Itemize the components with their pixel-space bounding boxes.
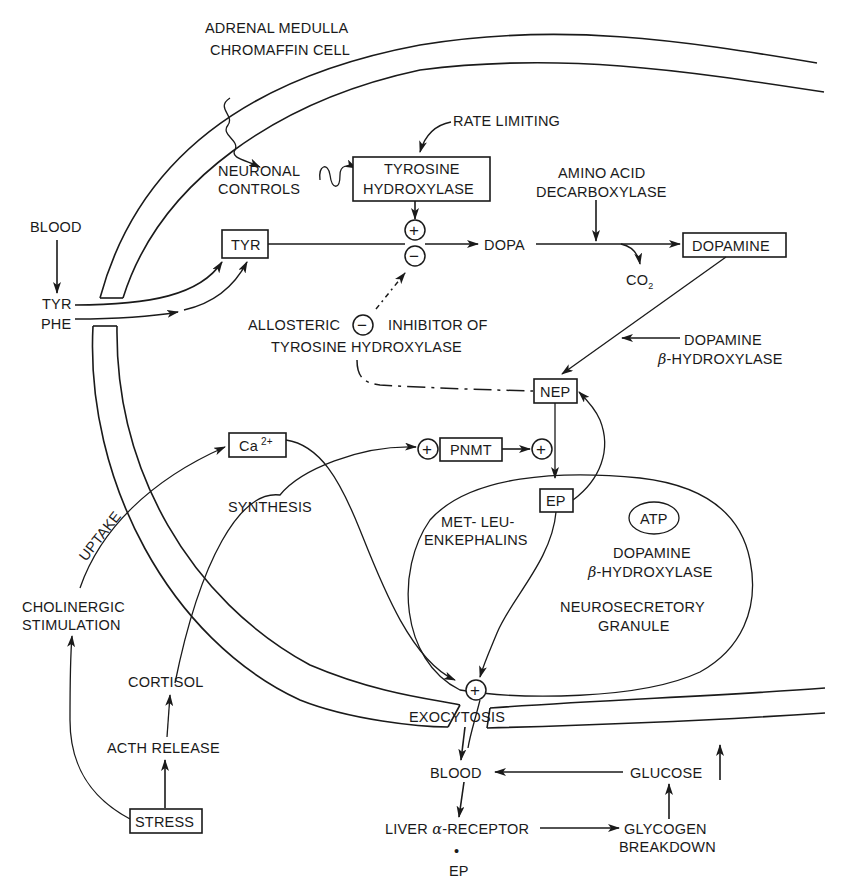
cholinergic-label-1: CHOLINERGIC [22,599,125,615]
atp-label: ATP [640,511,668,527]
amino-acid-decarboxylase-label-1: AMINO ACID [558,165,645,181]
allosteric-minus-symbol: − [357,316,367,335]
granule-dbh-label-2: β-HYDROXYLASE [587,564,713,580]
minus-symbol: − [409,247,419,266]
tyrosine-hydroxylase-label-1: TYROSINE [384,161,460,177]
granule-dbh-label-1: DOPAMINE [613,545,691,561]
phe-input-label: PHE [41,316,72,332]
plus-symbol: + [409,221,419,240]
neurosecretory-label-1: NEUROSECRETORY [560,599,705,615]
inhibitor-of-label: INHIBITOR OF [388,317,488,333]
pnmt-box-label: PNMT [450,442,492,458]
synthesis-label: SYNTHESIS [228,499,312,515]
cell-membrane [92,34,825,728]
stress-box-label: STRESS [135,814,194,830]
amino-acid-decarboxylase-label-2: DECARBOXYLASE [536,184,667,200]
cortisol-label: CORTISOL [128,674,203,690]
dbh-label-2: β-HYDROXYLASE [657,351,783,367]
neurosecretory-granule-outline [408,475,752,696]
glycogen-label-1: GLYCOGEN [624,821,707,837]
exocytosis-label: EXOCYTOSIS [409,709,505,725]
cholinergic-label-2: STIMULATION [22,617,121,633]
glucose-label: GLUCOSE [630,765,702,781]
cell-title-line1: ADRENAL MEDULLA [205,20,349,36]
ep-box-label: EP [546,493,566,509]
tyr-input-label: TYR [42,296,72,312]
blood-bottom-label: BLOOD [430,765,482,781]
pnmt-plus-symbol-right: + [536,440,546,459]
co2-label: CO2 [626,272,653,291]
tyrosine-hydroxylase-inhibited-label: TYROSINE HYDROXYLASE [271,339,462,355]
cell-title-line2: CHROMAFFIN CELL [210,42,350,58]
met-leu-label-1: MET- LEU- [441,514,515,530]
liver-alpha-receptor-label: LIVER α-RECEPTOR [385,821,529,837]
neuronal-squiggle-icon [320,166,356,186]
rate-limiting-label: RATE LIMITING [453,113,560,129]
neurosecretory-label-2: GRANULE [598,618,670,634]
met-leu-label-2: ENKEPHALINS [424,532,528,548]
neuronal-controls-label-1: NEURONAL [218,163,300,179]
liver-bullet: • [454,843,459,859]
neuronal-controls-label-2: CONTROLS [218,181,300,197]
acth-release-label: ACTH RELEASE [107,740,220,756]
nep-box-label: NEP [540,384,570,400]
catecholamine-pathway-diagram: ADRENAL MEDULLA CHROMAFFIN CELL NEURONAL… [0,0,841,894]
tyrosine-hydroxylase-label-2: HYDROXYLASE [363,181,474,197]
allosteric-label: ALLOSTERIC [248,317,340,333]
blood-source-label: BLOOD [30,219,82,235]
liver-ep-label: EP [449,863,469,879]
glycogen-label-2: BREAKDOWN [619,839,716,855]
dopamine-box-label: DOPAMINE [692,238,770,254]
pnmt-plus-symbol-left: + [422,440,432,459]
tyr-box-label: TYR [231,237,261,253]
dopa-label: DOPA [484,237,525,253]
exocytosis-plus-symbol: + [470,681,480,700]
uptake-label: UPTAKE [76,508,124,564]
dbh-label-1: DOPAMINE [684,332,762,348]
